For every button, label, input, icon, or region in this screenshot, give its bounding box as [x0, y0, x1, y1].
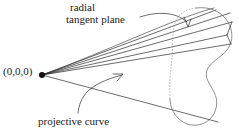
cone-ruling-lines	[42, 10, 232, 122]
projective-curve-visible	[170, 8, 232, 126]
projective-curve-leader-arrow	[78, 74, 123, 113]
projective-cone-figure: radial tangent plane (0,0,0) projective …	[0, 0, 239, 136]
label-radial: radial	[70, 2, 95, 14]
label-projective-curve: projective curve	[38, 116, 109, 128]
label-tangent-plane: tangent plane	[66, 14, 125, 26]
label-origin-coordinates: (0,0,0)	[3, 66, 32, 78]
ruling-line-4	[42, 35, 227, 75]
origin-vertex-dot	[39, 72, 45, 78]
